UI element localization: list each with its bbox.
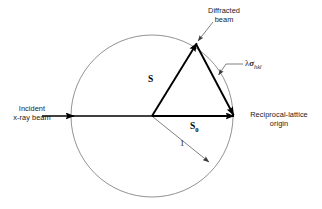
diffracted-beam-leader-line — [198, 22, 213, 41]
sigma-subscript: hkl — [254, 63, 262, 70]
vector-s0-subscript: 0 — [195, 126, 198, 133]
sigma-leader-line-elbow — [219, 64, 227, 75]
radius-label: 1 — [180, 138, 184, 148]
lambda-sigma-hkl-label: λσhkl — [245, 58, 262, 70]
diffracted-beam-label-line2: beam — [193, 15, 255, 24]
incident-beam-label-line1: Incident — [3, 104, 61, 113]
vector-s-arrow — [152, 43, 197, 116]
reciprocal-origin-label-line1: Reciprocal-lattice — [237, 110, 321, 119]
reciprocal-origin-label-line2: origin — [237, 119, 321, 128]
diffracted-beam-label-line1: Diffracted — [193, 6, 255, 15]
reciprocal-lattice-origin-label: Reciprocal-lattice origin — [237, 110, 321, 128]
vector-lambda-sigma-arrow — [196, 44, 234, 115]
incident-beam-label-line2: x-ray beam — [3, 113, 61, 122]
diffracted-beam-label: Diffracted beam — [193, 6, 255, 24]
vector-s-label: S — [148, 74, 153, 84]
vector-s0-label: S0 — [190, 121, 199, 135]
incident-beam-label: Incident x-ray beam — [3, 104, 61, 122]
